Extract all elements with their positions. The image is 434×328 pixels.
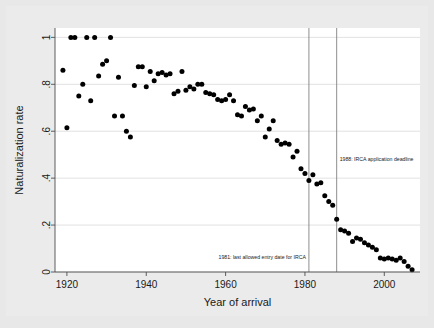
data-point [76, 94, 81, 99]
data-point [295, 149, 300, 154]
data-point [96, 74, 101, 79]
data-point [306, 178, 311, 183]
data-point [374, 247, 379, 252]
data-point [175, 89, 180, 94]
irca-entry-date-line-label: 1981: last allowed entry date for IRCA [219, 254, 307, 260]
data-point [60, 68, 65, 73]
data-point [406, 264, 411, 269]
data-point [310, 172, 315, 177]
data-point [318, 180, 323, 185]
data-point [84, 35, 89, 40]
x-tick-label-3: 1980 [294, 279, 317, 290]
scatter-plot: 192019401960198020000.2.4.6.81Year of ar… [6, 6, 428, 316]
data-point [358, 237, 363, 242]
y-tick-label-2: .4 [41, 174, 52, 183]
data-point [168, 71, 173, 76]
data-point [350, 239, 355, 244]
data-point [298, 166, 303, 171]
x-tick-label-4: 2000 [373, 279, 396, 290]
data-point [132, 83, 137, 88]
x-axis-title: Year of arrival [204, 296, 271, 308]
data-point [322, 193, 327, 198]
data-point [263, 135, 268, 140]
data-point [183, 88, 188, 93]
plot-area-background [55, 28, 420, 272]
irca-application-deadline-line-label: 1988: IRCA application deadline [340, 156, 414, 162]
y-tick-label-1: .2 [41, 220, 52, 229]
chart-figure: 192019401960198020000.2.4.6.81Year of ar… [0, 0, 434, 328]
data-point [112, 113, 117, 118]
data-point [72, 35, 77, 40]
data-point [243, 104, 248, 109]
data-point [227, 92, 232, 97]
data-point [148, 69, 153, 74]
data-point [302, 171, 307, 176]
data-point [267, 126, 272, 131]
data-point [231, 98, 236, 103]
data-point [287, 142, 292, 147]
data-point [275, 138, 280, 143]
y-tick-label-0: 0 [41, 269, 52, 275]
data-point [199, 82, 204, 87]
data-point [100, 62, 105, 67]
data-point [402, 259, 407, 264]
data-point [259, 113, 264, 118]
y-tick-label-3: .6 [41, 127, 52, 136]
data-point [291, 155, 296, 160]
data-point [410, 267, 415, 272]
data-point [255, 118, 260, 123]
x-tick-label-0: 1920 [56, 279, 79, 290]
chart-canvas: 192019401960198020000.2.4.6.81Year of ar… [6, 6, 428, 316]
data-point [223, 97, 228, 102]
data-point [191, 87, 196, 92]
data-point [326, 199, 331, 204]
data-point [251, 106, 256, 111]
data-point [346, 231, 351, 236]
data-point [92, 35, 97, 40]
data-point [398, 255, 403, 260]
data-point [239, 113, 244, 118]
data-point [271, 118, 276, 123]
data-point [330, 203, 335, 208]
data-point [140, 64, 145, 69]
data-point [124, 129, 129, 134]
data-point [211, 92, 216, 97]
data-point [179, 69, 184, 74]
x-tick-label-1: 1940 [135, 279, 158, 290]
data-point [144, 84, 149, 89]
data-point [80, 82, 85, 87]
data-point [108, 35, 113, 40]
data-point [104, 58, 109, 63]
data-point [120, 113, 125, 118]
y-axis-title: Naturalization rate [13, 105, 25, 194]
data-point [152, 78, 157, 83]
data-point [88, 98, 93, 103]
data-point [334, 217, 339, 222]
data-point [116, 75, 121, 80]
data-point [128, 135, 133, 140]
y-tick-label-4: .8 [41, 80, 52, 89]
y-tick-label-5: 1 [41, 34, 52, 40]
x-tick-label-2: 1960 [214, 279, 237, 290]
data-point [64, 125, 69, 130]
